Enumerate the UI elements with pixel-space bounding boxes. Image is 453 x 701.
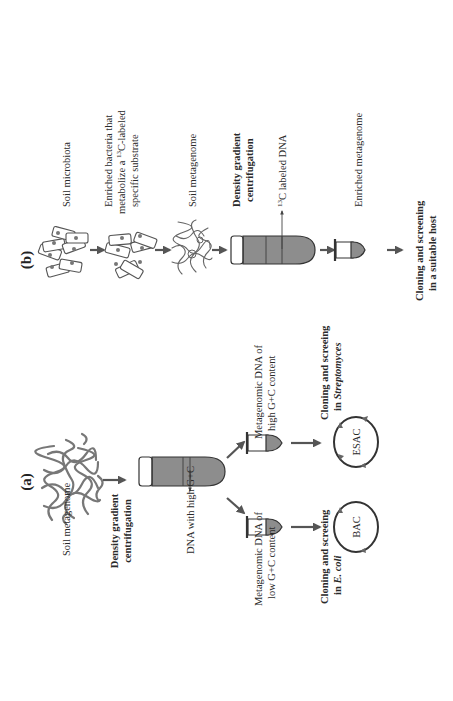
label-density-gradient-a-line2: centrifugation <box>122 499 133 563</box>
label-dna-high-gc: DNA with high G+C <box>185 466 196 554</box>
host-ecoli: E. coli <box>332 556 343 585</box>
soil-metagenome-strands-icon <box>172 220 212 274</box>
label-density-gradient-b-line2: centrifugation <box>244 138 255 202</box>
label-high-gc-line1: Metagenomic DNA of <box>253 345 264 439</box>
esac-plasmid-icon: ESAC <box>334 416 378 468</box>
host-streptomyces: Streptomyces <box>332 342 343 399</box>
label-13c-labeled-dna: 13C labeled DNA <box>276 134 288 207</box>
centrifuge-tube-icon <box>139 457 225 486</box>
label-soil-microbiota: Soil microbiota <box>61 142 72 207</box>
label-high-gc-line2: high G+C content <box>266 356 277 431</box>
arrow-icon <box>227 498 244 513</box>
label-low-gc-line2: low G+C content <box>266 527 277 599</box>
panel-b-label: (b) <box>18 251 35 269</box>
label-enriched-line1: Enriched bacteria that <box>103 115 114 207</box>
bac-label: BAC <box>351 516 362 538</box>
label-cloning-suitable-host-line2: in a suitable host <box>427 215 438 291</box>
esac-label: ESAC <box>351 429 362 456</box>
label-density-gradient-b-line1: Density gradient <box>231 132 242 207</box>
small-tube-enriched-icon <box>335 239 365 261</box>
soil-microbiota-cells-icon <box>38 226 88 277</box>
label-low-gc-line1: Metagenomic DNA of <box>253 512 264 606</box>
label-soil-metagenome-a: Soil metagenome <box>61 482 72 556</box>
label-cloning-suitable-host-line1: Cloning and screening <box>414 200 425 301</box>
arrow-icon <box>227 442 244 458</box>
label-soil-metagenome-b: Soil metagenome <box>187 133 198 207</box>
label-enriched-line2: metabolize a 13C-labeled <box>115 109 127 214</box>
panel-b: (b) Soil microbiota <box>18 109 438 301</box>
upright-frame: (a) Soil metagenome Density gradient cen… <box>18 109 438 606</box>
centrifuge-tube-b-icon <box>231 236 315 264</box>
label-cloning-streptomyces-line1: Cloning and screeing <box>319 325 330 420</box>
label-cloning-ecoli-line1: Cloning and screeing <box>319 509 330 604</box>
label-enriched-line3: specific substrate <box>129 134 140 207</box>
enriched-bacteria-cells-icon <box>105 232 158 279</box>
label-enriched-metagenome: Enriched metagenome <box>353 112 364 207</box>
label-cloning-streptomyces-line2: in Streptomyces <box>332 342 343 411</box>
label-density-gradient-a-line1: Density gradient <box>109 493 120 568</box>
panel-a: (a) Soil metagenome Density gradient cen… <box>18 325 378 606</box>
label-cloning-ecoli-line2: in E. coli <box>332 556 343 595</box>
bac-plasmid-icon: BAC <box>334 502 378 553</box>
metagenomics-workflow-diagram: (a) Soil metagenome Density gradient cen… <box>0 0 453 701</box>
panel-a-label: (a) <box>18 473 35 491</box>
